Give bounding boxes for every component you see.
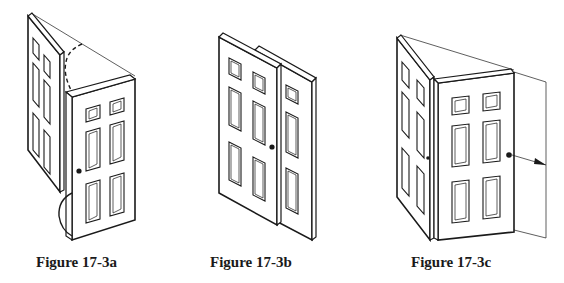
swing-arc-dashed <box>65 44 82 92</box>
figure-b-caption: Figure 17-3b <box>210 254 292 271</box>
figure-b-illustration <box>219 33 316 240</box>
figure-c-illustration <box>397 35 546 240</box>
front-door-side-edge <box>434 79 438 240</box>
arrow-head-icon <box>534 158 546 165</box>
front-door <box>219 37 277 225</box>
door-knob <box>269 144 274 149</box>
figure-a-illustration <box>28 13 135 240</box>
front-door <box>72 79 135 240</box>
door-knob <box>76 168 81 173</box>
swing-outline <box>514 72 546 238</box>
front-door <box>438 73 514 240</box>
door-knob <box>506 152 512 158</box>
door-side-edge <box>60 52 64 192</box>
door-diagram-canvas <box>0 0 564 283</box>
front-door-side-edge <box>66 92 72 240</box>
back-door-side-edge <box>312 78 316 240</box>
figure-c-caption: Figure 17-3c <box>411 254 491 271</box>
hinge <box>426 156 430 160</box>
figure-a-caption: Figure 17-3a <box>36 254 117 271</box>
front-door-side-edge <box>277 64 281 225</box>
